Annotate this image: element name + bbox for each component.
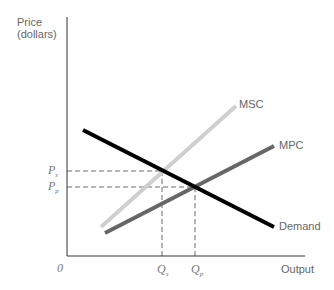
y-axis-label: Price (dollars) [17, 16, 57, 40]
y-axis-label-line1: Price [17, 16, 57, 28]
y-axis-label-line2: (dollars) [17, 28, 57, 40]
mpc-curve [105, 146, 274, 233]
x-axis-label: Output [281, 263, 314, 275]
qs-label: Qs [157, 262, 168, 278]
mpc-label: MPC [279, 139, 303, 151]
msc-label: MSC [239, 98, 263, 110]
ps-label: Ps [48, 163, 58, 179]
qp-label: Qp [191, 262, 203, 278]
demand-label: Demand [279, 220, 321, 232]
origin-label: 0 [57, 261, 63, 276]
msc-curve [101, 106, 236, 227]
demand-curve [83, 130, 274, 227]
pp-label: Pp [48, 179, 59, 195]
